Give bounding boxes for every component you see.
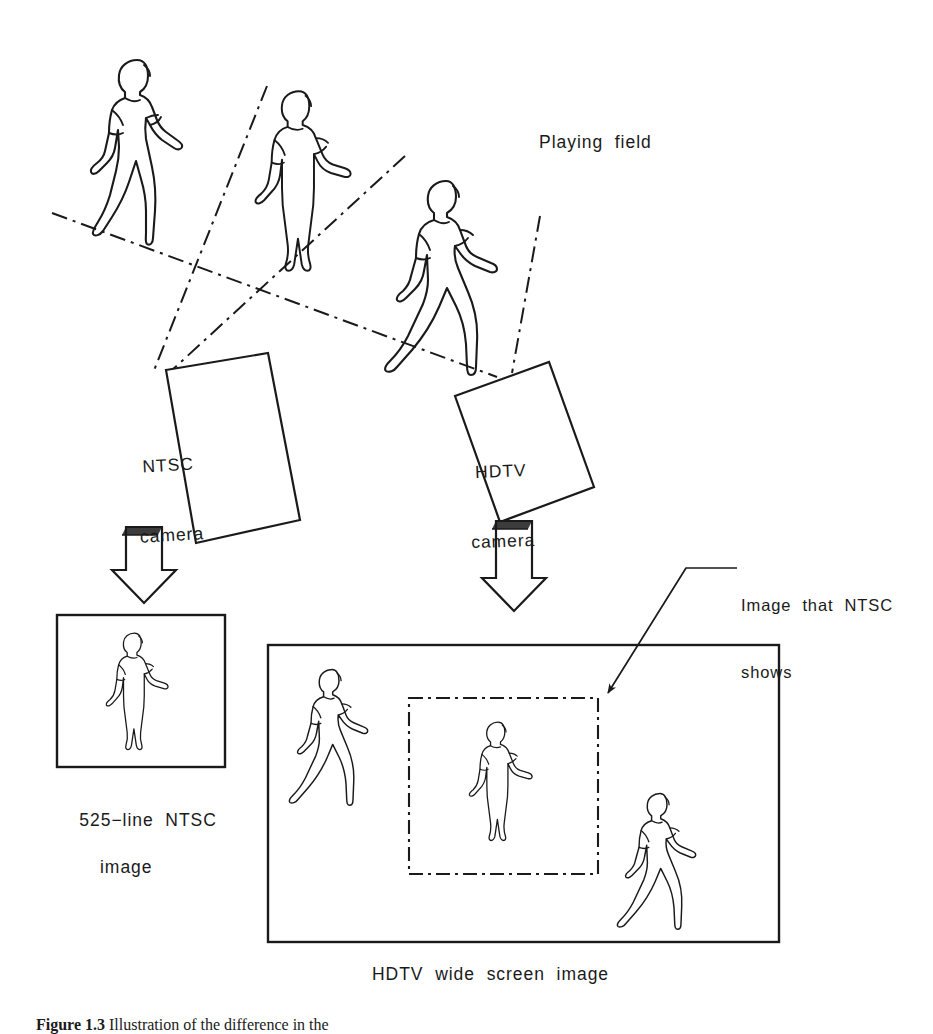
label-hdtv-camera-line1: HDTV [468, 459, 533, 485]
label-ntsc-camera: NTSC camera [133, 405, 208, 596]
label-ntsc-camera-line1: NTSC [135, 452, 200, 479]
athlete-standing-center [255, 91, 350, 271]
label-ntsc-image-line1: 525−line NTSC [79, 810, 217, 830]
figure-caption: Figure 1.3 Illustration of the differenc… [36, 1016, 329, 1034]
label-hdtv-image-caption: HDTV wide screen image [372, 963, 609, 986]
ntsc-ray-left [153, 86, 267, 373]
label-callout-line2: shows [741, 661, 893, 683]
figure-container: Playing field NTSC camera HDTV camera 52… [0, 0, 933, 1034]
label-hdtv-camera-line2: camera [471, 529, 536, 555]
figure-caption-number: Figure 1.3 [36, 1016, 105, 1033]
athlete-walking-left [91, 60, 182, 245]
label-ntsc-image-caption: 525−line NTSC image [56, 786, 217, 927]
label-ntsc-camera-line2: camera [139, 522, 204, 549]
hdtv-image-frame [268, 645, 779, 942]
label-ntsc-image-line2: image [56, 856, 217, 879]
ntsc-image-frame [57, 615, 225, 767]
athlete-striding-right [385, 181, 497, 375]
figure-caption-text: Illustration of the difference in the [105, 1016, 329, 1033]
playing-field-figures [91, 60, 497, 375]
hdtv-ray-right [512, 216, 540, 373]
label-playing-field: Playing field [539, 131, 652, 154]
label-callout-line1: Image that NTSC [741, 594, 893, 616]
label-callout-ntsc-shows: Image that NTSC shows [741, 550, 893, 727]
label-hdtv-camera: HDTV camera [467, 412, 538, 602]
